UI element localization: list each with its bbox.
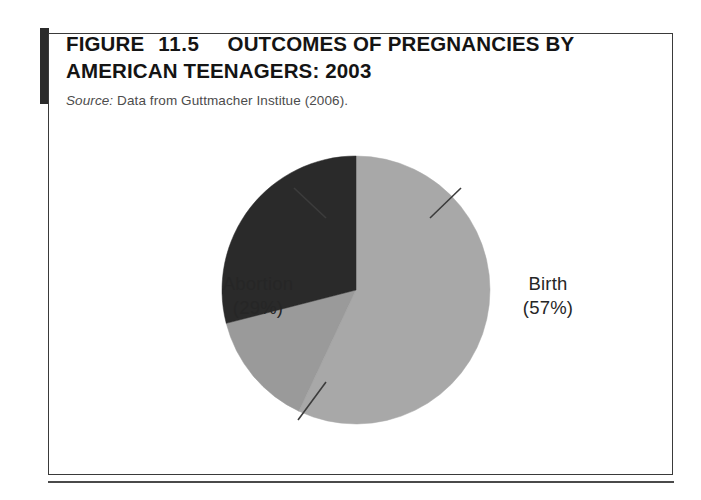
figure-header: FIGURE11.5OUTCOMES OF PREGNANCIES BY AME… [66, 30, 626, 108]
figure-title-line-1: FIGURE11.5OUTCOMES OF PREGNANCIES BY [66, 30, 626, 57]
pie-label-birth-percent: (57%) [478, 296, 618, 320]
pie-label-birth-name: Birth [478, 272, 618, 296]
pie-chart-area: Abortion (29%) Birth (57%) Miscarriage (… [48, 130, 673, 475]
figure-number: 11.5 [158, 32, 199, 55]
source-text: Data from Guttmacher Institue (2006). [117, 93, 348, 108]
figure-title-text-1: OUTCOMES OF PREGNANCIES BY [228, 32, 575, 55]
pie-label-birth: Birth (57%) [478, 272, 618, 320]
pie-label-abortion-percent: (29%) [188, 296, 328, 320]
figure-title-line-2: AMERICAN TEENAGERS: 2003 [66, 57, 626, 84]
figure-root: FIGURE11.5OUTCOMES OF PREGNANCIES BY AME… [0, 0, 701, 500]
pie-label-abortion: Abortion (29%) [188, 272, 328, 320]
pie-label-abortion-name: Abortion [188, 272, 328, 296]
source-label: Source: [66, 93, 113, 108]
figure-bottom-rule [48, 481, 674, 483]
figure-label: FIGURE [66, 32, 144, 55]
figure-source: Source: Data from Guttmacher Institue (2… [66, 93, 626, 108]
